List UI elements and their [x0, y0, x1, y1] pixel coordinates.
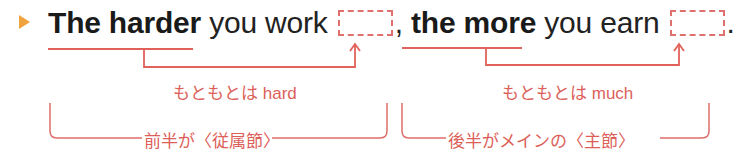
bracket-right-1: [272, 103, 387, 138]
label-subordinate-clause: 前半が〈従属節〉: [144, 127, 280, 152]
bracket-right-2: [660, 103, 709, 138]
bracket-left-2: [402, 103, 446, 138]
note-hard: もともとは hard: [173, 79, 297, 104]
note-much: もともとは much: [502, 79, 633, 104]
label-main-clause: 後半がメインの〈主節〉: [448, 127, 635, 152]
grammar-figure: The harder you work , the more you earn …: [0, 0, 740, 158]
bracket-left-1: [50, 103, 142, 138]
